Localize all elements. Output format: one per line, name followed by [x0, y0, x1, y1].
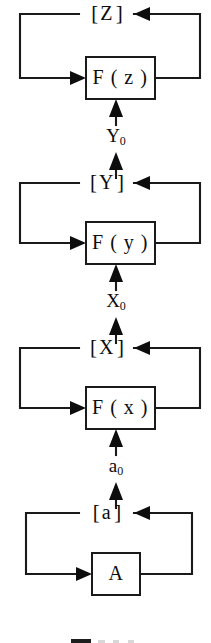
stage-z-forward-wire [20, 14, 79, 78]
stage-x-input-arrowhead [109, 429, 123, 447]
signal-sub-y0: 0 [120, 134, 126, 148]
signal-base-y0: Y [106, 125, 120, 146]
stage-a-feedback-arrowhead [134, 506, 150, 520]
bracket-close-y: ] [117, 170, 124, 194]
bracket-close-z: ] [116, 1, 123, 25]
signal-sub-a0: 0 [117, 464, 123, 478]
stage-y-forward-wire [20, 183, 79, 243]
paren-open-x: ( [104, 396, 124, 418]
process-fn-x: F [92, 396, 104, 418]
stage-a-forward-wire [26, 513, 80, 574]
paren-open-z: ( [104, 66, 124, 88]
stage-x-feedback-arrowhead [134, 341, 150, 355]
process-label-z: F ( z ) [86, 67, 155, 87]
paren-close-y: ) [134, 231, 149, 253]
paren-close-z: ) [134, 66, 149, 88]
state-symbol-x: X [97, 336, 117, 358]
signal-label-x0: X0 [96, 291, 136, 310]
signal-sub-x0: 0 [120, 299, 126, 313]
process-label-a: A [92, 563, 140, 583]
stage-y-input-arrowhead [109, 264, 123, 282]
paren-open-y: ( [104, 231, 124, 253]
process-fn-y: F [92, 231, 104, 253]
paren-close-x: ) [134, 396, 149, 418]
state-label-y: [Y] [79, 172, 135, 193]
stage-z-feedback-arrowhead [134, 7, 150, 21]
process-label-y: F ( y ) [86, 232, 155, 252]
signal-y0-lower-arrowhead [109, 152, 123, 170]
stage-y-feedback-arrowhead [134, 176, 150, 190]
signal-x0-lower-arrowhead [109, 317, 123, 335]
signal-label-y0: Y0 [96, 126, 136, 145]
bracket-open-y: [ [90, 170, 97, 194]
figure-caption-cropped [71, 639, 134, 643]
state-symbol-y: Y [97, 171, 117, 193]
signal-base-a0: a [109, 455, 117, 476]
bracket-open-a: [ [93, 500, 100, 524]
state-label-x: [X] [79, 337, 135, 358]
process-arg-x: x [124, 396, 135, 418]
diagram-vector-layer [0, 0, 211, 643]
bracket-close-x: ] [117, 335, 124, 359]
stage-z-forward-arrowhead [70, 71, 86, 85]
stage-a-feedback-wire [134, 513, 192, 574]
process-fn-a: A [109, 562, 124, 584]
process-arg-z: z [124, 66, 133, 88]
process-fn-z: F [93, 66, 105, 88]
bracket-open-x: [ [90, 335, 97, 359]
signal-a0-lower-arrowhead [109, 482, 123, 500]
signal-base-x0: X [106, 290, 120, 311]
state-label-a: [a] [79, 502, 135, 523]
stage-y-forward-arrowhead [70, 236, 86, 250]
bracket-close-a: ] [114, 500, 121, 524]
figure-canvas: [Z] F ( z ) Y0 [Y] F ( y ) X0 [X] F ( x … [0, 0, 211, 643]
state-symbol-z: Z [98, 2, 116, 24]
process-label-x: F ( x ) [86, 397, 155, 417]
signal-label-a0: a0 [96, 456, 136, 475]
stage-z-input-arrowhead [109, 99, 123, 117]
stage-a-forward-arrowhead [76, 567, 92, 581]
caption-glyph-block [71, 639, 91, 643]
process-arg-y: y [124, 231, 135, 253]
state-symbol-a: a [100, 501, 114, 523]
stage-x-forward-wire [20, 348, 79, 408]
stage-x-forward-arrowhead [70, 401, 86, 415]
state-label-z: [Z] [79, 3, 135, 24]
